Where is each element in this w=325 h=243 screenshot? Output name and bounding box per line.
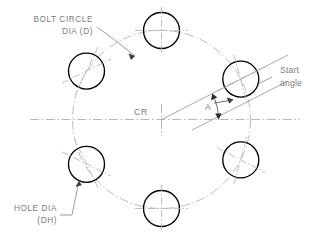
start-angle-label-line1: Start	[280, 65, 300, 75]
start-angle-leader	[258, 77, 272, 84]
bolt-circle-label-line1: BOLT CIRCLE	[33, 15, 93, 24]
center-reference-label: CR	[134, 107, 148, 117]
bolt-circle-leader-arrowhead	[129, 54, 136, 61]
angle-label-a: A	[205, 102, 211, 112]
start-angle-label-line2: angle	[280, 78, 302, 88]
start-angle-radius-line	[162, 55, 289, 120]
bolt-circle-drawing: A BOLT CIRCLE DIA (D) HOLE DIA (DH) CR S…	[0, 0, 325, 243]
bolt-circle-leader-segment-2	[116, 41, 135, 56]
hole-dia-label-line1: HOLE DIA	[14, 204, 57, 213]
bolt-circle-leader-segment-1	[97, 27, 116, 41]
drawing-canvas: A BOLT CIRCLE DIA (D) HOLE DIA (DH) CR S…	[0, 0, 325, 243]
angle-arrowhead-upper	[211, 94, 217, 101]
angle-arrowhead-lower	[215, 113, 222, 119]
hole-dia-label-line2: (DH)	[37, 216, 57, 225]
bolt-circle-label-line2: DIA (D)	[62, 27, 93, 36]
